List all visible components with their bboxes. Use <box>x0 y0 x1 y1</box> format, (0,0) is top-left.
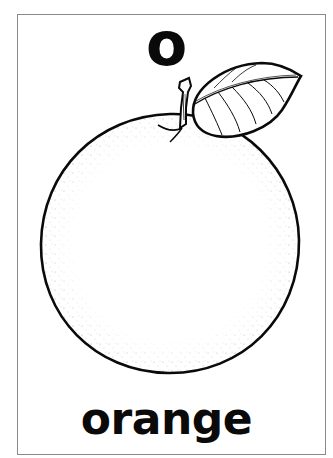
flashcard-word: orange <box>0 392 333 446</box>
orange-illustration-icon <box>0 0 333 458</box>
orange-leaf <box>193 63 301 137</box>
orange-body <box>40 110 302 376</box>
